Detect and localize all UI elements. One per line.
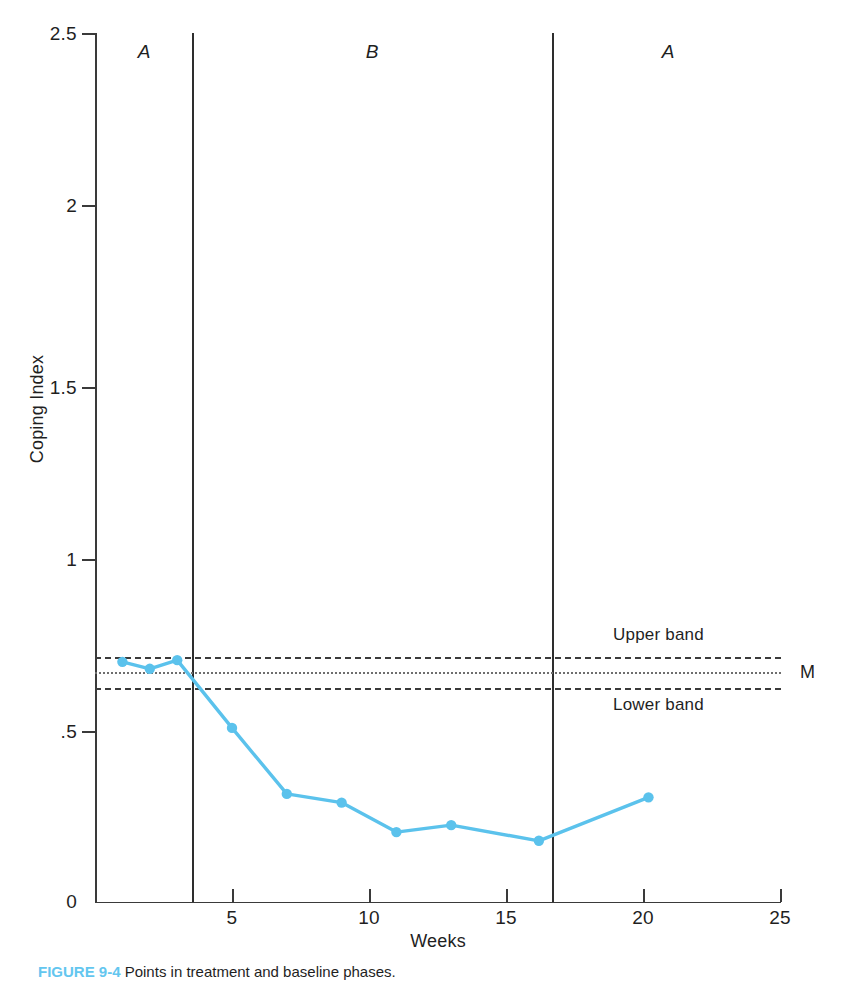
x-tick-label-5: 5 bbox=[202, 908, 262, 928]
y-tick-label-2: 2 bbox=[5, 196, 77, 215]
x-axis-line bbox=[95, 902, 781, 904]
y-tick-label-0: 0 bbox=[5, 892, 77, 911]
figure-caption: FIGURE 9-4 Points in treatment and basel… bbox=[38, 962, 828, 981]
y-tick-0.5 bbox=[82, 731, 95, 733]
y-tick-1.5 bbox=[82, 387, 95, 389]
y-tick-label-0.5: .5 bbox=[5, 722, 77, 741]
x-tick-25 bbox=[780, 889, 782, 902]
x-tick-15 bbox=[506, 889, 508, 902]
y-axis-title: Coping Index bbox=[28, 309, 46, 509]
lower-band-caption: Lower band bbox=[613, 696, 704, 714]
series-markers bbox=[117, 655, 653, 846]
data-point bbox=[391, 827, 401, 837]
data-point bbox=[446, 820, 456, 830]
y-tick-label-1: 1 bbox=[5, 550, 77, 569]
phase-label-treatment: B bbox=[332, 42, 412, 62]
figure-caption-number: FIGURE 9-4 bbox=[38, 963, 121, 980]
x-tick-5 bbox=[232, 889, 234, 902]
x-tick-20 bbox=[643, 889, 645, 902]
x-tick-label-15: 15 bbox=[476, 908, 536, 928]
x-tick-10 bbox=[369, 889, 371, 902]
data-point bbox=[282, 789, 292, 799]
data-point bbox=[643, 792, 653, 802]
upper-band-caption: Upper band bbox=[613, 626, 704, 644]
phase-line-b-to-a bbox=[552, 33, 554, 902]
y-axis-line bbox=[95, 33, 97, 903]
phase-line-a-to-b bbox=[192, 33, 194, 902]
mean-reference-line bbox=[95, 672, 781, 674]
phase-label-baseline-second: A bbox=[628, 42, 708, 62]
x-tick-label-25: 25 bbox=[750, 908, 810, 928]
mean-label: M bbox=[800, 663, 815, 681]
lower-band-line bbox=[95, 688, 781, 690]
data-point bbox=[534, 836, 544, 846]
y-tick-label-2.5: 2.5 bbox=[5, 24, 77, 43]
data-point bbox=[227, 723, 237, 733]
y-tick-2.5 bbox=[82, 33, 95, 35]
x-tick-label-10: 10 bbox=[339, 908, 399, 928]
x-tick-label-20: 20 bbox=[613, 908, 673, 928]
x-axis-title: Weeks bbox=[95, 932, 781, 950]
data-point bbox=[336, 797, 346, 807]
phase-label-baseline-first: A bbox=[104, 42, 184, 62]
data-series bbox=[0, 0, 841, 984]
figure-caption-text: Points in treatment and baseline phases. bbox=[125, 963, 396, 980]
figure-root: 2.5 2 1.5 1 .5 0 5 10 15 20 25 Coping In… bbox=[0, 0, 841, 984]
y-tick-2 bbox=[82, 205, 95, 207]
upper-band-line bbox=[95, 657, 781, 659]
y-tick-1 bbox=[82, 559, 95, 561]
